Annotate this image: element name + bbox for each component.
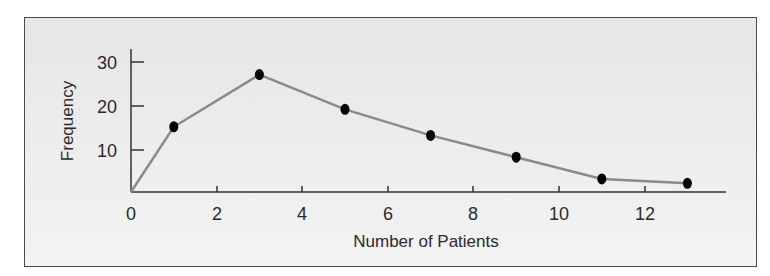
x-tick-2: 2 xyxy=(212,204,222,224)
data-point-marker xyxy=(169,121,178,132)
y-axis-title: Frequency xyxy=(58,80,77,161)
y-tick-labels: 30 20 10 xyxy=(97,53,117,161)
x-tick-12: 12 xyxy=(635,204,655,224)
x-axis-title: Number of Patients xyxy=(353,232,499,251)
y-tick-30: 30 xyxy=(97,53,117,73)
x-tick-8: 8 xyxy=(468,204,478,224)
data-point-marker xyxy=(255,69,264,80)
y-ticks xyxy=(131,62,144,150)
data-point-marker xyxy=(512,152,521,163)
x-tick-4: 4 xyxy=(297,204,307,224)
x-tick-labels: 0 2 4 6 8 10 12 xyxy=(126,204,655,224)
chart-canvas: 30 20 10 0 2 4 6 8 10 12 Number of Patie… xyxy=(0,0,770,276)
x-tick-10: 10 xyxy=(549,204,569,224)
data-point-marker xyxy=(597,173,606,184)
data-point-marker xyxy=(341,104,350,115)
y-tick-10: 10 xyxy=(97,141,117,161)
data-series xyxy=(131,69,692,192)
y-tick-20: 20 xyxy=(97,97,117,117)
x-ticks xyxy=(217,186,645,192)
data-point-marker xyxy=(683,178,692,189)
x-tick-0: 0 xyxy=(126,204,136,224)
x-tick-6: 6 xyxy=(383,204,393,224)
data-point-marker xyxy=(426,130,435,141)
